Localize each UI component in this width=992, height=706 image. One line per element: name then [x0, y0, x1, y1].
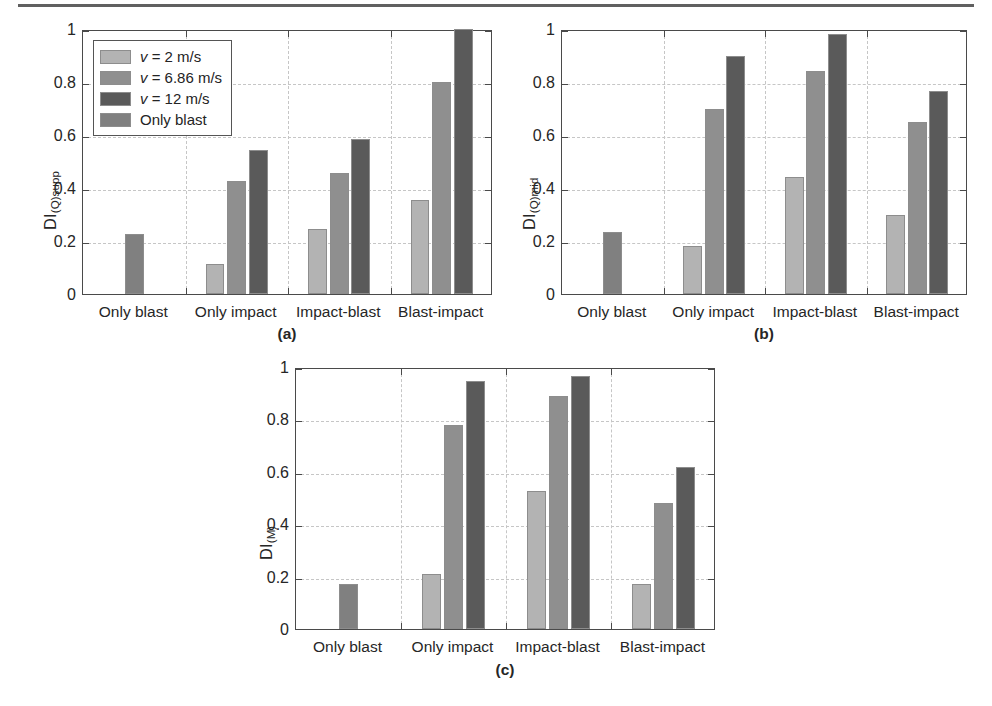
x-tick-mark [611, 369, 612, 375]
x-tick-mark [867, 31, 868, 37]
legend-label-text: = 6.86 m/s [148, 69, 223, 86]
y-tick-mark [485, 84, 491, 85]
y-tick-mark [83, 84, 89, 85]
bar [432, 82, 451, 294]
gridline-horizontal [83, 190, 491, 191]
x-tick-mark [391, 31, 392, 37]
x-tick-label: Impact-blast [505, 639, 610, 655]
x-tick-label: Blast-impact [866, 304, 968, 320]
y-tick-label: 0.6 [34, 128, 76, 144]
legend-swatch [100, 50, 131, 64]
bar [886, 215, 905, 295]
y-tick-mark [296, 579, 302, 580]
y-axis-title-subscript: (Q)mid [528, 178, 540, 214]
y-tick-mark [708, 579, 714, 580]
legend-label-text: Only blast [140, 111, 207, 128]
bar [806, 71, 825, 294]
x-tick-label: Blast-impact [390, 304, 493, 320]
y-axis-title-subscript: (M) [265, 526, 277, 544]
y-tick-label: 0.6 [513, 128, 555, 144]
gridline-vertical [401, 369, 402, 629]
x-tick-label: Impact-blast [287, 304, 390, 320]
bar [422, 574, 441, 629]
bar [330, 173, 349, 294]
y-tick-label: 0.8 [34, 75, 76, 91]
y-tick-mark [960, 243, 966, 244]
y-tick-label: 0.2 [34, 234, 76, 250]
y-tick-mark [708, 421, 714, 422]
y-tick-mark [485, 243, 491, 244]
y-tick-label: 1 [34, 22, 76, 38]
y-tick-mark [562, 84, 568, 85]
legend-label-variable: v [140, 48, 148, 65]
y-tick-label: 1 [247, 360, 289, 376]
y-tick-label: 0.8 [513, 75, 555, 91]
legend-item: v = 6.86 m/s [100, 67, 222, 88]
legend-label-variable: v [140, 90, 148, 107]
bar [683, 246, 702, 294]
bar [571, 376, 590, 629]
y-tick-mark [960, 31, 966, 32]
y-axis-title-a: DI(Q)supp [41, 171, 60, 230]
bar [726, 56, 745, 295]
x-tick-mark [506, 623, 507, 629]
x-tick-mark [506, 369, 507, 375]
y-tick-mark [83, 190, 89, 191]
bar [125, 234, 144, 294]
plot-area-c [295, 368, 715, 630]
x-tick-mark [401, 623, 402, 629]
gridline-horizontal [562, 137, 966, 138]
x-tick-label: Impact-blast [764, 304, 866, 320]
bar [227, 181, 246, 294]
bar [454, 29, 473, 294]
y-tick-label: 0.8 [247, 412, 289, 428]
gridline-vertical [288, 31, 289, 294]
y-tick-mark [960, 84, 966, 85]
gridline-horizontal [562, 84, 966, 85]
x-tick-mark [664, 288, 665, 294]
legend-item-label: Only blast [140, 112, 207, 127]
y-tick-mark [562, 31, 568, 32]
legend-label-variable: v [140, 69, 148, 86]
y-tick-mark [708, 369, 714, 370]
x-tick-label: Only impact [185, 304, 288, 320]
legend-item: v = 12 m/s [100, 88, 222, 109]
bar [705, 109, 724, 295]
y-tick-label: 0.2 [513, 234, 555, 250]
bar [411, 200, 430, 294]
x-tick-mark [288, 288, 289, 294]
x-tick-label: Only impact [400, 639, 505, 655]
y-tick-mark [562, 137, 568, 138]
gridline-horizontal [296, 579, 714, 580]
panel-caption-c: (c) [295, 662, 715, 678]
gridline-horizontal [296, 421, 714, 422]
bar [785, 177, 804, 294]
gridline-horizontal [296, 526, 714, 527]
legend-label-text: = 12 m/s [148, 90, 210, 107]
y-tick-mark [485, 137, 491, 138]
bar [527, 491, 546, 629]
x-tick-mark [288, 31, 289, 37]
x-tick-label: Only impact [663, 304, 765, 320]
bar [676, 467, 695, 629]
y-axis-title-c: DI(M) [257, 526, 276, 560]
gridline-horizontal [562, 243, 966, 244]
bar [603, 232, 622, 294]
gridline-vertical [391, 31, 392, 294]
x-tick-mark [664, 31, 665, 37]
y-axis-title-main: DI [257, 543, 275, 560]
bar [632, 584, 651, 629]
bar [308, 229, 327, 294]
gridline-vertical [664, 31, 665, 294]
y-tick-mark [83, 137, 89, 138]
y-tick-label: 0.2 [247, 570, 289, 586]
x-tick-label: Only blast [295, 639, 400, 655]
x-tick-mark [611, 623, 612, 629]
x-tick-mark [401, 369, 402, 375]
y-tick-mark [83, 243, 89, 244]
y-tick-mark [562, 243, 568, 244]
y-tick-mark [485, 31, 491, 32]
y-tick-mark [296, 526, 302, 527]
gridline-horizontal [83, 243, 491, 244]
y-axis-title-main: DI [41, 213, 59, 230]
